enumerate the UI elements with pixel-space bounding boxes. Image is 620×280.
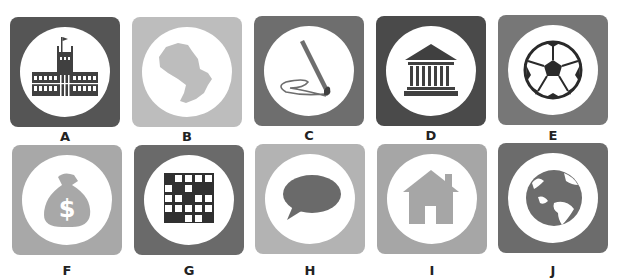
soccer-ball-icon	[508, 25, 598, 115]
speech-bubble-icon	[265, 154, 355, 244]
tile-i-circle	[387, 154, 477, 244]
tile-g-circle	[144, 155, 234, 245]
label-j: J	[498, 263, 608, 278]
tile-e[interactable]	[498, 15, 608, 125]
government-palace-icon	[20, 27, 110, 117]
tile-g[interactable]	[134, 145, 244, 255]
tile-b[interactable]	[132, 17, 242, 127]
house-icon	[387, 154, 477, 244]
label-a: A	[10, 129, 120, 144]
crossword-grid-icon	[144, 155, 234, 245]
label-b: B	[132, 129, 242, 144]
tile-e-circle	[508, 25, 598, 115]
tile-d[interactable]	[376, 16, 486, 126]
tile-j-circle	[508, 153, 598, 243]
tile-f[interactable]: $	[12, 145, 122, 255]
tile-i[interactable]	[377, 144, 487, 254]
country-map-icon	[142, 27, 232, 117]
label-i: I	[377, 263, 487, 278]
tile-a[interactable]	[10, 17, 120, 127]
label-g: G	[134, 263, 244, 278]
paintbrush-signature-icon	[264, 26, 354, 116]
tile-j[interactable]	[498, 143, 608, 253]
money-bag-icon: $	[22, 155, 112, 245]
tile-h[interactable]	[255, 144, 365, 254]
museum-building-icon	[386, 26, 476, 116]
label-h: H	[255, 263, 365, 278]
tile-b-circle	[142, 27, 232, 117]
label-f: F	[12, 263, 122, 278]
svg-text:$: $	[59, 195, 76, 223]
tile-a-circle	[20, 27, 110, 117]
tile-c-circle	[264, 26, 354, 116]
tile-f-circle: $	[22, 155, 112, 245]
globe-icon	[508, 153, 598, 243]
tile-c[interactable]	[254, 16, 364, 126]
tile-d-circle	[386, 26, 476, 116]
label-c: C	[254, 128, 364, 143]
tile-h-circle	[265, 154, 355, 244]
label-e: E	[498, 128, 608, 143]
label-d: D	[376, 128, 486, 143]
